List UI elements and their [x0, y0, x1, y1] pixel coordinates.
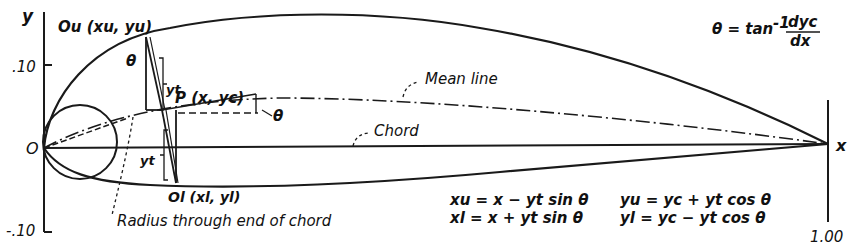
upper-thickness-line: [146, 37, 162, 110]
y-tick-label-minus10: -.10: [6, 222, 35, 240]
yt-upper-label: yt: [166, 82, 181, 97]
upper-point-label: Ou (xu, yu): [58, 18, 152, 36]
mean-line-label: Mean line: [425, 70, 498, 88]
y-axis-label: y: [22, 6, 34, 26]
theta-def-lhs: θ = tan: [712, 20, 773, 38]
equation-yu: yu = yc + yt cos θ: [620, 191, 771, 209]
airfoil-diagram: y .10 -.10 O x 1.00 Ou (xu, yu) Ol (xl, …: [0, 0, 855, 245]
x-axis-label: x: [835, 136, 847, 155]
theta-def-denominator: dx: [790, 32, 812, 50]
chord-label: Chord: [374, 122, 419, 140]
mean-line-leader: [403, 82, 418, 97]
yt-lower-label: yt: [140, 153, 155, 168]
x-end-label: 1.00: [810, 228, 843, 245]
chord-line: [44, 144, 828, 148]
theta-mean-label: θ: [273, 107, 283, 125]
equation-yl: yl = yc − yt cos θ: [620, 209, 765, 227]
theta-definition: θ = tan -1 dyc dx: [712, 13, 820, 50]
y-tick-label-10: .10: [12, 58, 36, 76]
theta-def-numerator: dyc: [788, 13, 818, 31]
radius-note: Radius through end of chord: [117, 212, 332, 230]
mean-point-label: P (x, yc): [175, 89, 244, 107]
equation-xu: xu = x − yt sin θ: [449, 191, 589, 209]
chord-leader: [353, 133, 368, 146]
origin-label: O: [26, 139, 39, 158]
equation-xl: xl = x + yt sin θ: [449, 209, 583, 227]
lower-point-label: Ol (xl, yl): [168, 189, 240, 205]
theta-upper-label: θ: [126, 52, 136, 70]
lower-surface: [44, 144, 828, 187]
